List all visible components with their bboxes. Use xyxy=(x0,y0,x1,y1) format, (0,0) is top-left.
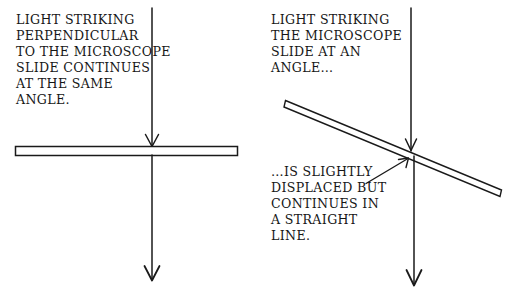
right-incoming-beam-arrow xyxy=(406,8,417,151)
left-panel-caption: LIGHT STRIKING PERPENDICULAR TO THE MICR… xyxy=(16,12,171,108)
right-panel-caption: …IS SLIGHTLY DISPLACED BUT CONTINUES IN … xyxy=(271,164,386,244)
right-panel-heading: LIGHT STRIKING THE MICROSCOPE SLIDE AT A… xyxy=(271,12,402,76)
right-outgoing-beam-arrow xyxy=(407,156,422,286)
left-microscope-slide xyxy=(16,147,238,156)
left-outgoing-beam-arrow xyxy=(145,155,160,281)
